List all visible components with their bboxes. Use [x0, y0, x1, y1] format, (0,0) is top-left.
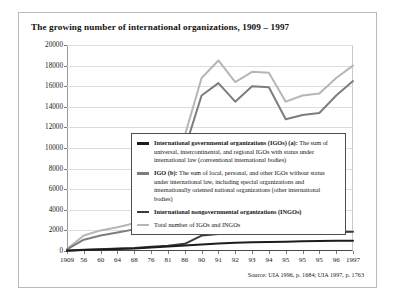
x-axis-tick-mark: [117, 251, 118, 254]
y-axis-tick-label: 14000: [45, 103, 63, 111]
legend-entry-ingo: International nongovernmental organizati…: [137, 208, 339, 217]
chart-title: The growing number of international orga…: [31, 22, 289, 32]
y-axis-tick-label: 6000: [49, 185, 63, 193]
y-axis-tick-label: 18000: [45, 62, 63, 70]
legend-swatch-igo-b: [137, 172, 149, 175]
x-axis-tick-mark: [202, 251, 203, 254]
legend-swatch-ingo: [137, 211, 149, 214]
x-axis-tick-mark: [235, 251, 236, 254]
y-axis-tick-label: 2000: [49, 226, 63, 234]
y-axis-tick-label: 12000: [45, 123, 63, 131]
figure-container: The growing number of international orga…: [18, 12, 377, 288]
y-axis-tick-label: 8000: [49, 165, 63, 173]
series-line: [67, 241, 353, 251]
chart-legend: International governmental organizations…: [131, 133, 346, 235]
legend-swatch-total: [137, 224, 149, 227]
x-axis-tick-mark: [336, 251, 337, 254]
source-citation: Source: UIA 1996, p. 1684; UIA 1997, p. …: [248, 271, 364, 278]
x-axis-tick-mark: [319, 251, 320, 254]
legend-swatch-igo-a: [137, 142, 149, 145]
x-axis-tick-mark: [303, 251, 304, 254]
y-axis-tick-label: 4000: [49, 206, 63, 214]
legend-label-igo-b: IGO (b): The sum of local, personal, and…: [154, 169, 339, 203]
legend-entry-igo-b: IGO (b): The sum of local, personal, and…: [137, 169, 339, 203]
legend-label-igo-a: International governmental organizations…: [154, 139, 339, 165]
x-axis-tick-mark: [151, 251, 152, 254]
x-axis-tick-mark: [134, 251, 135, 254]
y-axis-tick-label: 10000: [45, 144, 63, 152]
x-axis-tick-mark: [168, 251, 169, 254]
legend-label-total: Total number of IGOs and INGOs: [154, 221, 240, 230]
legend-entry-total: Total number of IGOs and INGOs: [137, 221, 339, 230]
x-axis-tick-mark: [101, 251, 102, 254]
x-axis-tick-mark: [353, 251, 354, 254]
x-axis-tick-mark: [218, 251, 219, 254]
legend-label-ingo: International nongovernmental organizati…: [154, 208, 301, 217]
x-axis-tick-mark: [269, 251, 270, 254]
legend-entry-igo-a: International governmental organizations…: [137, 139, 339, 165]
x-axis-tick-mark: [185, 251, 186, 254]
y-axis-tick-label: 20000: [45, 41, 63, 49]
x-axis-tick-mark: [84, 251, 85, 254]
x-axis-tick-mark: [252, 251, 253, 254]
x-axis-tick-mark: [286, 251, 287, 254]
y-axis-tick-label: 16000: [45, 82, 63, 90]
